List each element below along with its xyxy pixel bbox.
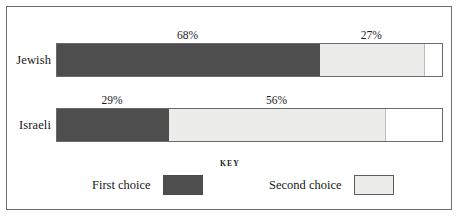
legend-item-second-choice: Second choice [269,173,394,197]
category-label-jewish: Jewish [7,43,51,77]
category-label-israeli: Israeli [7,108,51,142]
legend-title: KEY [7,159,453,168]
bar-segment-israeli-first-choice [57,109,169,141]
value-label-israeli-second-choice: 56% [266,94,287,106]
value-label-israeli-first-choice: 29% [102,94,123,106]
bar-track-jewish [56,43,443,77]
bar-track-israeli [56,108,443,142]
bar-segment-israeli-second-choice [169,109,386,141]
value-label-jewish-second-choice: 27% [361,29,382,41]
value-label-jewish-first-choice: 68% [177,29,198,41]
legend-swatch-first-choice [163,175,203,195]
legend-swatch-second-choice [354,175,394,195]
chart-figure-frame: Jewish 68% 27% Israeli 29% 56% KEY First… [6,6,452,210]
legend-label-first-choice: First choice [92,178,151,193]
chart-legend: KEY First choice Second choice [7,159,453,211]
bar-segment-jewish-second-choice [320,44,424,76]
legend-label-second-choice: Second choice [269,178,342,193]
bar-segment-jewish-first-choice [57,44,320,76]
legend-item-first-choice: First choice [92,173,203,197]
